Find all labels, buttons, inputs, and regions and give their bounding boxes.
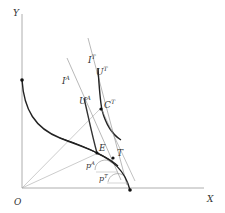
ua-label: UA — [79, 94, 92, 106]
ia-label: IA — [61, 74, 71, 86]
t-label: T — [117, 148, 124, 158]
y-axis-label: Y — [13, 8, 20, 18]
point-ppf-bottom — [128, 188, 132, 192]
e-label: E — [98, 143, 106, 153]
x-axis-label: X — [206, 194, 214, 204]
ct-label: CT — [104, 98, 116, 110]
price-arc-autarky — [95, 160, 112, 170]
trade-diagram: Y X O IA IT UA UT CT E T pA pT — [0, 0, 225, 213]
point-t — [111, 156, 114, 159]
point-ppf-top — [20, 78, 24, 82]
price-line-trade — [101, 108, 135, 181]
origin-label: O — [14, 197, 22, 207]
diagram-svg: Y X O IA IT UA UT CT E T pA pT — [0, 0, 225, 213]
price-arc-trade — [108, 174, 123, 182]
indifference-curve-autarky — [84, 98, 97, 153]
point-ct — [99, 107, 102, 110]
it-label: IT — [87, 53, 97, 65]
pa-label: pA — [86, 160, 95, 170]
ray-to-e — [22, 154, 96, 188]
ut-label: UT — [96, 65, 109, 77]
pt-label: pT — [99, 173, 108, 183]
